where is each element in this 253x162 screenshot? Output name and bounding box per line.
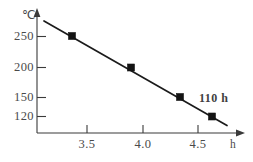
data-point-marker <box>209 113 216 120</box>
data-point-marker <box>177 94 184 101</box>
x-tick-label-4-0: 4.0 <box>123 137 163 152</box>
data-point-marker <box>128 64 135 71</box>
chart-container: ℃ 250 200 150 120 3.5 4.0 4.5 h 110 h <box>0 0 253 162</box>
x-tick-label-3-5: 3.5 <box>67 137 107 152</box>
x-axis-unit-label: h <box>230 138 236 150</box>
y-tick-label-150: 150 <box>0 90 34 105</box>
y-tick-label-200: 200 <box>0 60 34 75</box>
data-point-marker <box>69 33 76 40</box>
x-tick-label-4-5: 4.5 <box>178 137 218 152</box>
chart-annotation-110h: 110 h <box>199 91 229 106</box>
y-tick-label-250: 250 <box>0 29 34 44</box>
y-axis-unit-label: ℃ <box>22 8 35 22</box>
y-tick-label-120: 120 <box>0 109 34 124</box>
x-axis-arrow-icon <box>236 130 245 137</box>
